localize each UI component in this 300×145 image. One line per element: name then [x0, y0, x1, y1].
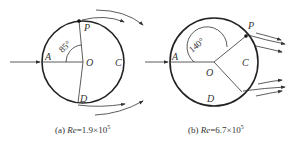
angle-label: 140° [187, 36, 207, 55]
label-D: D [206, 93, 215, 104]
label-A: A [171, 51, 179, 62]
figure-b: P A O C D 140° (b) Re=6.7×105 [150, 18, 285, 135]
streamline-top-2 [256, 33, 281, 40]
label-P: P [247, 20, 254, 31]
label-C: C [115, 57, 122, 68]
streamline-bottom-3 [256, 91, 282, 96]
label-O: O [206, 67, 213, 78]
radius-OP [79, 21, 83, 62]
streamline-bottom-2 [95, 101, 143, 115]
figure-a: P A O C D 85° (a) Re=1.9×105 [10, 10, 150, 135]
caption-a: (a) Re=1.9×105 [55, 124, 110, 135]
label-D: D [79, 93, 88, 104]
angle-label: 85° [57, 38, 73, 54]
streamline-top-3 [256, 46, 282, 52]
separation-point-P [244, 34, 248, 38]
label-A: A [44, 51, 52, 62]
caption-b: (b) Re=6.7×105 [188, 124, 244, 135]
streamline-bottom-1 [258, 80, 282, 84]
label-O: O [86, 57, 93, 68]
streamline-bottom-1 [78, 104, 125, 106]
label-P: P [83, 22, 90, 33]
radius-OD [214, 62, 242, 92]
label-C: C [242, 57, 249, 68]
separation-point-P [77, 19, 81, 23]
flow-separation-diagram: P A O C D 85° (a) Re=1.9×105 P A O C D 1… [0, 0, 300, 145]
